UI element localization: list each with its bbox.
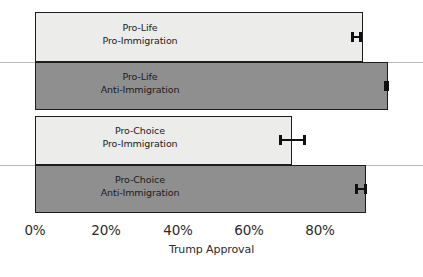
error-cap-left-icon (355, 184, 358, 194)
bar-pro-choice-pro-immigration[interactable] (35, 116, 292, 165)
error-bar-pro-life-anti-immigration (384, 85, 389, 88)
bar-pro-choice-anti-immigration[interactable] (35, 165, 366, 213)
plot-area: Pro-Life Pro-Immigration Pro-Life Anti-I… (0, 0, 423, 220)
x-tick-label-40: 40% (163, 222, 192, 238)
bar-pro-life-pro-immigration[interactable] (35, 12, 363, 62)
x-axis: 0% 20% 40% 60% 80% Trump Approval (0, 220, 423, 277)
error-cap-left-icon (351, 32, 354, 42)
x-tick-label-60: 60% (234, 222, 263, 238)
bar-pro-life-anti-immigration[interactable] (35, 62, 388, 110)
error-bar-pro-choice-pro-immigration (279, 139, 306, 142)
error-cap-left-icon (279, 135, 282, 145)
x-tick-label-0: 0% (24, 222, 45, 238)
error-cap-right-icon (364, 184, 367, 194)
error-cap-right-icon (303, 135, 306, 145)
horizontal-bar-chart: Pro-Life Pro-Immigration Pro-Life Anti-I… (0, 0, 423, 277)
error-cap-right-icon (386, 81, 389, 91)
x-tick-label-20: 20% (91, 222, 120, 238)
error-bar-pro-life-pro-immigration (351, 36, 362, 39)
error-bar-pro-choice-anti-immigration (355, 188, 367, 191)
x-axis-title: Trump Approval (0, 243, 423, 256)
error-cap-right-icon (359, 32, 362, 42)
x-tick-label-80: 80% (305, 222, 334, 238)
